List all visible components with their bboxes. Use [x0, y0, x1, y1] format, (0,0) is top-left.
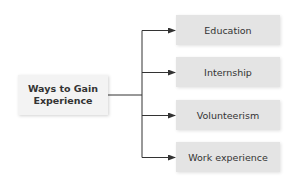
node-label: Internship	[204, 67, 252, 78]
node-education: Education	[176, 15, 280, 45]
node-label: Volunteerism	[197, 110, 259, 121]
node-label: Education	[204, 25, 251, 36]
node-label: Work experience	[188, 152, 268, 163]
root-label-line-2: Experience	[28, 95, 98, 107]
node-volunteerism: Volunteerism	[176, 100, 280, 130]
node-internship: Internship	[176, 57, 280, 87]
root-label-line-1: Ways to Gain	[28, 83, 98, 95]
node-work-experience: Work experience	[176, 142, 280, 172]
root-node: Ways to Gain Experience	[18, 75, 108, 115]
